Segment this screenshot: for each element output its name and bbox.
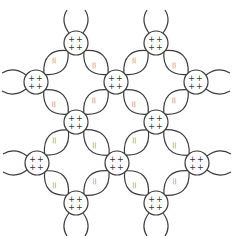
edge-stubs [2,10,231,236]
stub-lobe-left [2,70,26,94]
metal-ion: ++++ [105,151,129,175]
electron-pair-mark: || [92,141,96,149]
positive-charge-label: ++ [68,203,83,212]
positive-charge-label: ++ [148,203,163,212]
bond-lobe: || [124,90,149,115]
positive-charge-label: ++ [148,43,163,52]
electron-pair-mark: || [52,100,56,108]
metal-ion: ++++ [144,31,168,55]
stub-lobe-down [144,213,168,236]
metal-ion: ++++ [25,151,49,175]
metal-ion: ++++ [64,31,88,55]
metallic-bond-lattice-diagram: |||||||||||||||||||||||||||||||| +++++++… [0,0,233,237]
stub-lobe-up [144,10,168,33]
metal-ion: ++++ [104,70,128,94]
electron-pair-mark: || [132,100,136,108]
bond-lobe: || [44,171,68,195]
metal-ion: ++++ [184,70,208,94]
bond-lobe: || [124,50,148,74]
bond-lobe: || [84,130,110,156]
stub-lobe-left [3,151,27,175]
positive-charge-label: ++ [108,82,123,91]
electron-pair-mark: || [172,61,176,69]
positive-charge-label: ++ [68,122,83,131]
bond-lobe: || [164,130,190,156]
bond-lobe: || [44,130,68,155]
electron-pair-mark: || [172,141,176,149]
positive-charge-label: ++ [189,163,204,172]
electron-pair-mark: || [172,96,176,104]
positive-charge-label: ++ [28,82,43,91]
metal-ion: ++++ [24,70,48,94]
metal-ion: ++++ [185,151,209,175]
metal-ion: ++++ [144,191,168,215]
bond-lobe: || [124,171,148,195]
stub-lobe-down [64,213,88,236]
stub-lobe-right [206,70,230,94]
electron-pair-mark: || [132,136,136,144]
electron-pair-mark: || [92,61,96,69]
bond-lobe: || [44,90,69,115]
electron-pair-mark: || [52,136,56,144]
electron-pair-mark: || [92,96,96,104]
bond-lobe: || [164,90,189,115]
positive-charge-label: ++ [148,122,163,131]
bond-lobe: || [44,50,68,74]
stub-lobe-up [64,10,88,33]
bond-lobe: || [84,50,108,74]
electron-pair-mark: || [132,181,136,189]
electron-pair-mark: || [52,181,56,189]
metal-ion: ++++ [64,191,88,215]
positive-charge-label: ++ [29,163,44,172]
positive-charge-label: ++ [188,82,203,91]
bond-lobe: || [84,90,109,115]
stub-lobe-right [207,151,231,175]
bond-lobe: || [124,130,148,155]
positive-charge-label: ++ [68,43,83,52]
electron-pair-mark: || [172,177,176,185]
electron-pair-mark: || [132,56,136,64]
metal-ion: ++++ [144,110,168,134]
bond-lobe: || [84,171,109,196]
electron-pair-mark: || [52,56,56,64]
metal-ion: ++++ [64,110,88,134]
bond-lobe: || [164,171,189,196]
electron-pair-mark: || [92,177,96,185]
bond-lobe: || [164,50,188,74]
positive-charge-label: ++ [109,163,124,172]
